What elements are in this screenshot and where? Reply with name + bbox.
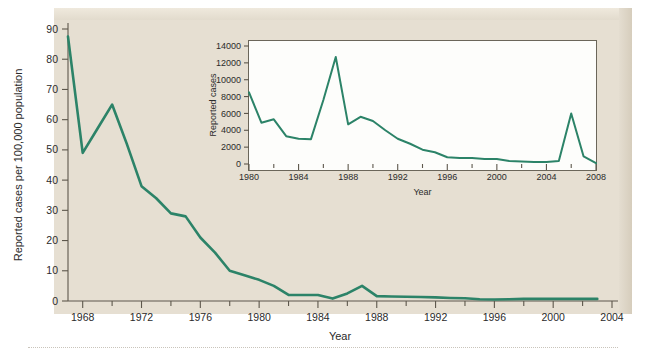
inset-y-axis-title: Reported cases [208,73,218,137]
main-y-axis-title: Reported cases per 100,000 population [12,69,24,262]
chart-label-layer: Reported cases per 100,000 populationYea… [0,0,646,355]
inset-x-axis-title: Year [413,187,431,197]
page-bottom-rule [28,347,618,349]
main-x-axis-title: Year [329,330,352,342]
chart-figure: 0102030405060708090196819721976198019841… [0,0,646,355]
